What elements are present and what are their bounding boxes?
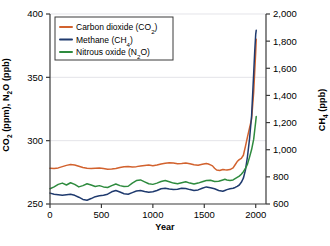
ytick-label-right-1600: 1,600 — [273, 63, 297, 74]
series-line-2 — [50, 117, 256, 189]
xtick-label-1000: 1000 — [142, 209, 163, 220]
ytick-label-right-800: 800 — [273, 171, 289, 182]
ytick-label-left-350: 350 — [27, 72, 43, 83]
ytick-label-right-600: 600 — [273, 198, 289, 209]
xtick-label-500: 500 — [93, 209, 109, 220]
greenhouse-gas-chart-figure: CO2 (ppm), N2O (ppb) CH4 (ppb) Year 2503… — [0, 0, 330, 246]
xtick-label-0: 0 — [47, 209, 52, 220]
ytick-label-right-1400: 1,400 — [273, 90, 297, 101]
ytick-label-left-300: 300 — [27, 135, 43, 146]
ytick-label-right-2000: 2,000 — [273, 8, 297, 19]
ytick-label-right-1000: 1,000 — [273, 144, 297, 155]
ytick-label-left-400: 400 — [27, 8, 43, 19]
plot-area: 2503003504006008001,0001,2001,4001,6001,… — [0, 0, 330, 246]
legend[interactable]: Carbon dioxide (CO2)Methane (CH4)Nitrous… — [55, 17, 173, 60]
xtick-label-1500: 1500 — [194, 209, 215, 220]
xtick-label-2000: 2000 — [245, 209, 266, 220]
ytick-label-right-1800: 1,800 — [273, 36, 297, 47]
ytick-label-left-250: 250 — [27, 198, 43, 209]
ytick-label-right-1200: 1,200 — [273, 117, 297, 128]
